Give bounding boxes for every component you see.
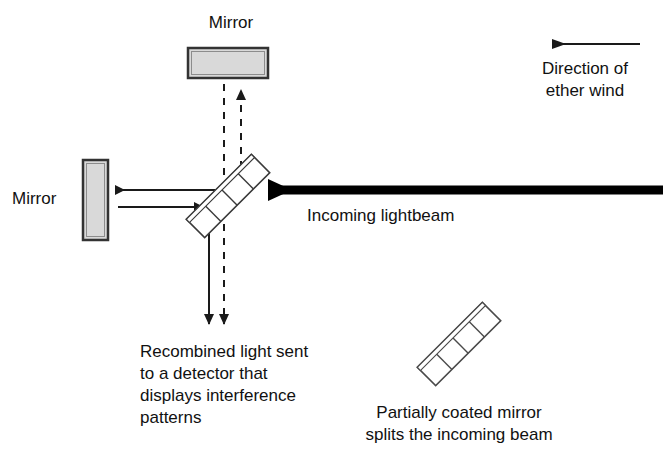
ether-wind-label-line1: Direction of [515,58,655,80]
incoming-lightbeam-label: Incoming lightbeam [307,205,454,227]
ether-wind-label-line2: ether wind [515,80,655,102]
beam-splitter [186,154,269,237]
splitter-caption-line1: Partially coated mirror [359,402,559,424]
legend-partially-coated-mirror [417,302,500,385]
detector-label-line2: to a detector that [140,363,268,385]
top-mirror [188,48,268,78]
detector-label-line1: Recombined light sent [140,341,308,363]
left-mirror-label: Mirror [12,188,56,210]
splitter-caption-line2: splits the incoming beam [359,424,559,446]
left-mirror [83,160,108,240]
top-mirror-label: Mirror [186,12,276,34]
diagram-canvas: Mirror Mirror Direction of ether wind In… [0,0,663,466]
detector-label-line3: displays interference [140,385,296,407]
detector-label-line4: patterns [140,407,201,429]
